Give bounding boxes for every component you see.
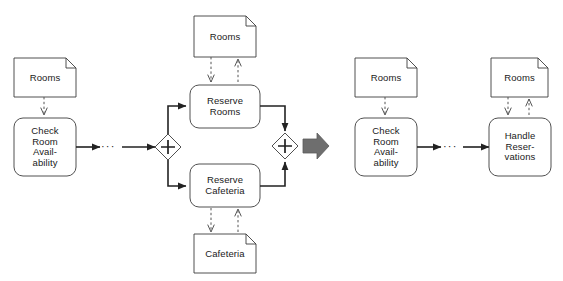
rooms-data-object-shape	[491, 58, 548, 97]
transition-arrow-icon	[303, 133, 329, 159]
flow-reserve-cafeteria-to-join	[260, 162, 285, 186]
rooms-data-object-shape	[14, 58, 76, 97]
task-handle-reservations-shape	[489, 118, 551, 176]
rooms-data-object-shape	[194, 16, 256, 57]
ellipsis-right: ···	[443, 141, 458, 152]
task-check-room-availability-shape	[355, 118, 417, 176]
gateway-fork-shape	[155, 134, 181, 160]
task-reserve-rooms-shape	[190, 85, 260, 128]
gateway-join-shape	[272, 133, 298, 159]
process-diagram: Rooms Check Room Avail- ability ··· Room…	[0, 0, 563, 281]
task-reserve-cafeteria-shape	[190, 164, 260, 207]
flow-fork-to-reserve-cafeteria	[168, 160, 186, 186]
flow-fork-to-reserve-rooms	[168, 106, 186, 134]
ellipsis-left: ···	[101, 141, 116, 152]
rooms-data-object-shape	[355, 58, 417, 97]
diagram-canvas	[0, 0, 563, 281]
task-check-room-availability-shape	[14, 118, 76, 176]
cafeteria-data-object-shape	[194, 234, 256, 273]
flow-reserve-rooms-to-join	[260, 106, 285, 131]
